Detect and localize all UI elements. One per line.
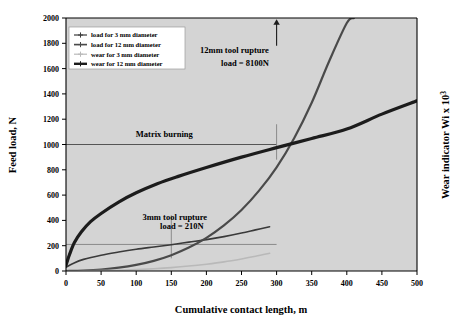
y-tick-label: 1600 — [43, 65, 59, 74]
svg-text:Wear indicator Wi x 103: Wear indicator Wi x 103 — [439, 91, 452, 199]
legend-label-1: load for 12 mm diameter — [91, 41, 161, 48]
y-axis-right-title-exponent: 3 — [439, 91, 448, 95]
x-tick-label: 400 — [341, 279, 353, 288]
legend-label-0: load for 3 mm diameter — [91, 31, 158, 38]
x-axis-title: Cumulative contact length, m — [175, 304, 308, 315]
feed-load-wear-chart: 0200400600800100012001400160018002000050… — [0, 0, 466, 322]
x-tick-label: 100 — [130, 279, 142, 288]
x-tick-label: 500 — [411, 279, 423, 288]
rupture-12mm-label-1: 12mm tool rupture — [200, 45, 269, 55]
legend: load for 3 mm diameterload for 12 mm dia… — [69, 27, 185, 69]
y-axis-right-title-group: Wear indicator Wi x 103 — [439, 91, 452, 199]
y-tick-label: 600 — [47, 191, 59, 200]
legend-label-2: wear for 3 mm diameter — [91, 51, 159, 58]
y-tick-label: 1200 — [43, 115, 59, 124]
y-tick-label: 1000 — [43, 141, 59, 150]
y-tick-label: 400 — [47, 216, 59, 225]
chart-container: 0200400600800100012001400160018002000050… — [0, 0, 466, 322]
x-tick-label: 450 — [376, 279, 388, 288]
x-tick-label: 300 — [271, 279, 283, 288]
x-tick-label: 50 — [97, 279, 105, 288]
x-tick-label: 150 — [165, 279, 177, 288]
rupture-12mm-label-2: load = 8100N — [221, 58, 270, 68]
y-axis-right-title: Wear indicator Wi x 10 — [440, 95, 451, 199]
matrix-burning: Matrix burning — [136, 129, 194, 139]
x-tick-label: 250 — [236, 279, 248, 288]
x-tick-label: 350 — [306, 279, 318, 288]
y-tick-label: 0 — [55, 267, 59, 276]
y-axis-left-title: Feed load, N — [7, 116, 18, 173]
y-tick-label: 800 — [47, 166, 59, 175]
y-tick-label: 1400 — [43, 90, 59, 99]
y-tick-label: 1800 — [43, 39, 59, 48]
x-tick-label: 200 — [200, 279, 212, 288]
y-tick-label: 200 — [47, 242, 59, 251]
rupture-3mm-label-2: load = 210N — [160, 221, 204, 231]
y-tick-label: 2000 — [43, 14, 59, 23]
legend-label-3: wear for 12 mm diameter — [91, 60, 163, 67]
x-tick-label: 0 — [64, 279, 68, 288]
